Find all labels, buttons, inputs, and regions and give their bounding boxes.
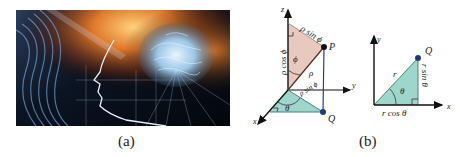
x-axis-label: x	[252, 117, 257, 126]
teal-triangle	[270, 90, 323, 112]
polar-y-axis-label: y	[376, 35, 381, 44]
point-q-label: Q	[328, 113, 336, 124]
phi-label: ϕ	[293, 54, 298, 64]
point-q	[320, 109, 326, 115]
panel-a-caption: (a)	[118, 133, 135, 150]
panel-b-caption: (b)	[359, 133, 377, 150]
polar-coordinates-diagram: y x Q r θ r sin θ r cos θ	[374, 35, 451, 118]
brain-art-illustration	[16, 10, 230, 126]
z-axis-label: z	[280, 5, 285, 14]
point-p-label: P	[328, 41, 335, 52]
pink-triangle	[288, 23, 324, 90]
theta-label: θ	[285, 103, 290, 113]
polar-teal-triangle	[374, 58, 418, 105]
r-cos-theta-label: r cos θ	[382, 108, 407, 118]
rho-sin-phi-top-label: ρ sin ϕ	[298, 23, 325, 45]
x-axis	[258, 90, 288, 124]
polar-point-q-label: Q	[425, 45, 433, 56]
polar-x-axis-label: x	[446, 102, 451, 111]
rho-label: ρ	[308, 68, 314, 78]
polar-point-q	[415, 55, 421, 61]
point-p	[321, 44, 327, 50]
polar-theta-label: θ	[400, 86, 405, 96]
brain-profile-image	[16, 10, 230, 126]
r-sin-theta-label: r sin θ	[420, 64, 430, 88]
rho-cos-phi-label: ρ cos ϕ	[278, 49, 288, 76]
r-label: r	[393, 69, 397, 79]
rho-sin-phi-base-label: ρ sin ϕ	[296, 79, 319, 98]
y-axis-label: y	[351, 81, 356, 90]
spherical-coordinates-diagram: z y x P Q ρ sin ϕ ρ cos ϕ ϕ ρ ρ sin ϕ θ	[252, 5, 356, 126]
